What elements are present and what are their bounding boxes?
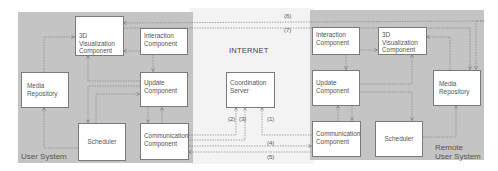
component-label: Communication Component xyxy=(316,130,360,145)
component-label: Coordination Server xyxy=(230,79,266,94)
component-label: Scheduler xyxy=(385,135,414,143)
remote-user-system-label: Remote User System xyxy=(435,143,481,161)
remote-label-line2: User System xyxy=(435,152,481,161)
remote-3d-visualization-component: 3D Visualization Component xyxy=(378,27,427,55)
component-label: Update Component xyxy=(144,79,177,94)
connection-label-7: (7) xyxy=(284,27,291,33)
connection-label-6: (6) xyxy=(284,13,291,19)
remote-label-line1: Remote xyxy=(435,143,481,152)
local-interaction-component: Interaction Component xyxy=(140,28,188,55)
component-label: Media Repository xyxy=(27,82,60,97)
component-label: Interaction Component xyxy=(144,32,177,47)
remote-update-component: Update Component xyxy=(312,70,360,106)
connection-label-2: (2) xyxy=(228,116,235,122)
local-update-component: Update Component xyxy=(140,72,188,107)
internet-label: INTERNET xyxy=(229,46,269,55)
connection-label-3: (3) xyxy=(239,116,246,122)
user-system-label: User System xyxy=(21,152,67,161)
local-scheduler: Scheduler xyxy=(78,123,126,161)
connection-label-1: (1) xyxy=(267,116,274,122)
local-communication-component: Communication Component xyxy=(140,123,189,160)
component-label: Communication Component xyxy=(144,132,188,147)
remote-communication-component: Communication Component xyxy=(312,121,361,157)
component-label: 3D Visualization Component xyxy=(79,32,115,54)
remote-scheduler: Scheduler xyxy=(375,121,423,157)
component-label: Media Repository xyxy=(439,80,474,95)
component-label: Interaction Component xyxy=(316,31,349,46)
coordination-server: Coordination Server xyxy=(226,72,275,108)
connection-label-5: (5) xyxy=(267,154,274,160)
local-media-repository: Media Repository xyxy=(21,72,69,108)
component-label: Scheduler xyxy=(88,138,117,146)
connection-label-4: (4) xyxy=(267,140,274,146)
component-label: Update Component xyxy=(316,79,349,94)
local-3d-visualization-component: 3D Visualization Component xyxy=(75,16,124,56)
remote-media-repository: Media Repository xyxy=(433,70,481,106)
component-label: 3D Visualization Component xyxy=(382,31,418,53)
remote-interaction-component: Interaction Component xyxy=(312,27,360,55)
